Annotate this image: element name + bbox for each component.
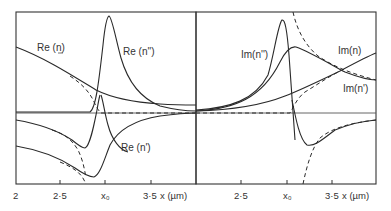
right-x-ticks <box>241 180 332 184</box>
left-panel-frame <box>16 12 196 184</box>
curve-im-lower <box>292 100 376 145</box>
left-x-ticks <box>60 180 151 184</box>
tick-label-right-x0: x₀ <box>283 190 292 201</box>
dashed-approx-right-3 <box>303 120 376 184</box>
curve-re-n1 <box>16 95 100 148</box>
label-im-n2: Im(n'') <box>241 49 268 60</box>
curve-re-n2 <box>16 16 196 112</box>
curve-re-lower <box>16 113 196 177</box>
dashed-approx-left-1 <box>70 76 196 113</box>
x-axis-label-right: x (µm) <box>342 190 369 201</box>
label-re-n: Re (n) <box>37 42 65 53</box>
label-im-n1: Im(n') <box>343 83 368 94</box>
tick-label-left-x0: x₀ <box>101 190 110 201</box>
curve-re-n <box>16 47 196 105</box>
curve-im-n1 <box>196 47 376 111</box>
label-re-n2: Re (n'') <box>123 46 155 57</box>
x-axis-label-left: x (µm) <box>160 190 187 201</box>
tick-label-left-2: 2 <box>13 190 18 201</box>
label-im-n: Im(n) <box>338 45 361 56</box>
tick-label-right-3-5: 3·5 <box>325 190 339 201</box>
dashed-approx-left-2 <box>52 130 86 178</box>
tick-label-left-3-5: 3·5 <box>143 190 157 201</box>
tick-label-left-2-5: 2·5 <box>53 190 67 201</box>
refractive-index-figure: Re (n) Re (n'') Re (n') Im(n'') Im(n) Im… <box>0 0 391 211</box>
label-re-n1: Re (n') <box>121 142 151 153</box>
curve-im-n2 <box>196 20 295 140</box>
right-panel-frame <box>196 12 376 184</box>
tick-label-right-2-5: 2·5 <box>234 190 248 201</box>
curve-im-n <box>196 53 376 111</box>
dashed-approx-right-2 <box>196 71 340 113</box>
dashed-approx-right-1 <box>293 12 376 80</box>
